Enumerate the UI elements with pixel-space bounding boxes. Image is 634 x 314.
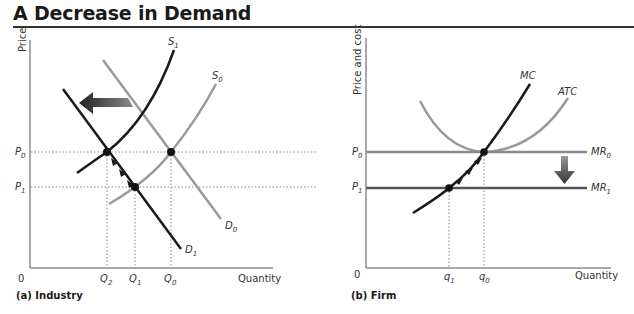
- tick-q1: q1: [444, 271, 455, 285]
- demand-shift-arrow-icon: [79, 92, 133, 114]
- origin-label: 0: [354, 269, 360, 280]
- tick-p1: P1: [15, 181, 26, 195]
- tick-q1: Q1: [129, 273, 141, 287]
- price-fall-arrow-icon: [554, 156, 575, 184]
- caption-industry: (a) Industry: [16, 290, 83, 301]
- guide-lines: [449, 152, 484, 268]
- panel-firm: Price and cost 0 Quantity MC ATC MR0: [352, 25, 618, 285]
- curve-atc: [420, 98, 568, 152]
- tick-p0: P0: [352, 146, 363, 160]
- label-s0: S0: [212, 70, 223, 84]
- firm-point-q1-p1: [445, 184, 453, 192]
- x-axis-label: Quantity: [238, 273, 281, 284]
- tick-p0: P0: [15, 146, 26, 160]
- y-axis-label: Price: [17, 28, 28, 52]
- equilibrium-q1-p1: [131, 183, 139, 191]
- movement-arrows: [111, 158, 134, 188]
- origin-label: 0: [18, 273, 24, 284]
- equilibrium-q0-p0: [167, 148, 175, 156]
- panel-industry: Price 0 Quantity: [15, 28, 318, 287]
- firm-point-q0-p0: [480, 148, 488, 156]
- x-axis-label: Quantity: [575, 270, 618, 281]
- label-mr1: MR1: [591, 182, 611, 196]
- tick-q0: Q0: [164, 273, 177, 287]
- label-d0: D0: [225, 220, 238, 234]
- tick-q0: q0: [479, 271, 490, 285]
- y-axis-label: Price and cost: [352, 25, 363, 95]
- movement-arrows: [455, 158, 482, 185]
- tick-q2: Q2: [100, 273, 113, 287]
- tick-p1: P1: [352, 181, 363, 195]
- label-d1: D1: [185, 244, 197, 258]
- figure-canvas: Price 0 Quantity: [0, 0, 634, 314]
- label-s1: S1: [168, 36, 179, 50]
- curve-mc: [413, 84, 530, 213]
- guide-lines: [31, 152, 318, 268]
- label-mc: MC: [520, 70, 536, 81]
- caption-firm: (b) Firm: [351, 290, 396, 301]
- equilibrium-q2-p0: [103, 148, 111, 156]
- label-mr0: MR0: [591, 146, 612, 160]
- label-atc: ATC: [557, 86, 577, 97]
